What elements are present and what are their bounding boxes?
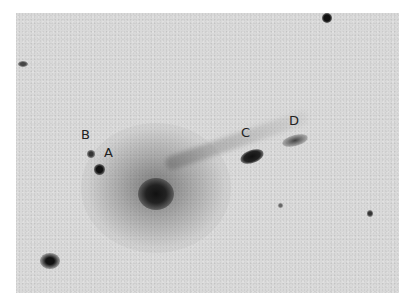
label-a: A: [104, 146, 113, 159]
label-d: D: [289, 114, 299, 127]
label-b: B: [81, 128, 90, 141]
astronomical-image: [16, 13, 399, 293]
star: [322, 13, 332, 23]
star: [278, 203, 283, 208]
object-a: [94, 164, 105, 175]
galaxy-core: [138, 178, 174, 210]
star: [367, 210, 373, 217]
star: [18, 61, 28, 67]
star: [40, 253, 60, 269]
label-c: C: [241, 126, 250, 139]
object-b: [87, 150, 95, 158]
